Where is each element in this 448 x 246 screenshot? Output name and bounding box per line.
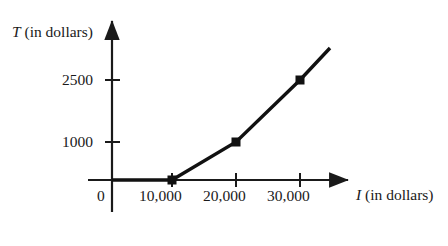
x-axis-units: (in dollars): [361, 186, 433, 203]
data-line-tax-function: [112, 48, 330, 180]
data-point-marker-20000: [232, 138, 241, 147]
y-axis-title: T (in dollars): [12, 24, 93, 40]
y-tick-label-1000: 1000: [62, 134, 93, 150]
y-axis-variable: T: [12, 23, 21, 40]
x-axis-title: I (in dollars): [356, 187, 434, 203]
data-point-marker-30000: [296, 76, 305, 85]
x-tick-label-20000: 20,000: [203, 188, 246, 204]
x-tick-label-30000: 30,000: [267, 188, 310, 204]
origin-label: 0: [97, 188, 105, 204]
y-axis-units: (in dollars): [21, 23, 93, 40]
x-tick-label-10000: 10,000: [139, 188, 182, 204]
data-point-marker-10000: [168, 176, 177, 185]
tax-function-graph-figure: T (in dollars) I (in dollars) 2500 1000 …: [0, 0, 448, 246]
y-tick-label-2500: 2500: [62, 72, 93, 88]
